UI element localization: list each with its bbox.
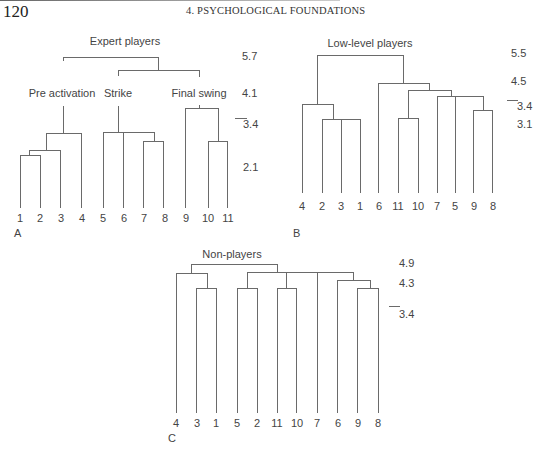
panel-title: Low-level players (328, 37, 413, 49)
dendrogram-link (237, 288, 296, 413)
leaf-label: 1 (357, 200, 363, 212)
scale-value: 3.4 (243, 118, 258, 130)
leaf-label: 2 (254, 417, 260, 429)
leaf-labels: 1 2 3 4 5 6 7 8 9 10 11 (17, 212, 234, 224)
leaf-label: 2 (319, 200, 325, 212)
dendrogram-link (20, 106, 81, 208)
leaf-label: 5 (452, 200, 458, 212)
scale-value: 5.5 (511, 47, 526, 59)
leaf-label: 7 (434, 200, 440, 212)
leaf-label: 5 (234, 417, 240, 429)
dendrogram-link (378, 83, 492, 193)
leaf-label: 4 (173, 417, 179, 429)
panel-label: C (168, 432, 176, 444)
leaf-label: 7 (141, 212, 147, 224)
dendrogram-non-players: Non-players 4.9 4.3 3.4 4 3 1 5 2 11 10 … (168, 248, 414, 444)
leaf-label: 3 (58, 212, 64, 224)
scale-value: 4.5 (511, 75, 526, 87)
leaf-label: 5 (100, 212, 106, 224)
leaf-label: 9 (183, 212, 189, 224)
leaf-label: 6 (121, 212, 127, 224)
scale-value: 2.1 (243, 161, 258, 173)
dendrogram-link (63, 57, 158, 70)
leaf-label: 6 (335, 417, 341, 429)
leaf-label: 9 (355, 417, 361, 429)
scale-value: 3.1 (517, 118, 532, 130)
leaf-label: 10 (202, 212, 214, 224)
leaf-label: 8 (490, 200, 496, 212)
scale-value: 4.1 (242, 87, 257, 99)
scale-value: 4.3 (399, 277, 414, 289)
dendrogram-link (317, 55, 403, 104)
cluster-label-strike: Strike (104, 87, 132, 99)
leaf-label: 3 (194, 417, 200, 429)
leaf-labels: 4 3 1 5 2 11 10 7 6 9 8 (173, 417, 381, 429)
panel-label: A (14, 227, 22, 239)
dendrogram-expert-players: Expert players Pre activation Strike Fin… (14, 35, 258, 239)
scale-value: 5.7 (242, 50, 257, 62)
dendrogram-figure: Expert players Pre activation Strike Fin… (0, 0, 544, 450)
panel-title: Expert players (90, 35, 161, 47)
dendrogram-low-level-players: Low-level players 5.5 4.5 3.4 3.1 4 2 3 … (293, 37, 532, 239)
dendrogram-link (103, 106, 163, 208)
leaf-label: 8 (375, 417, 381, 429)
leaf-label: 7 (314, 417, 320, 429)
leaf-label: 10 (412, 200, 424, 212)
leaf-label: 1 (213, 417, 219, 429)
leaf-label: 4 (299, 200, 305, 212)
panel-title: Non-players (202, 248, 262, 260)
leaf-label: 1 (17, 212, 23, 224)
leaf-label: 3 (338, 200, 344, 212)
leaf-label: 8 (162, 212, 168, 224)
leaf-labels: 4 2 3 1 6 11 10 7 5 9 8 (299, 200, 496, 212)
scale-value: 3.4 (399, 308, 414, 320)
dendrogram-link (337, 280, 378, 413)
leaf-label: 11 (222, 212, 233, 224)
leaf-label: 4 (79, 212, 85, 224)
cluster-label-final-swing: Final swing (171, 87, 226, 99)
leaf-label: 6 (376, 200, 382, 212)
dendrogram-link (118, 70, 199, 77)
dendrogram-link (176, 273, 216, 413)
panel-label: B (293, 227, 300, 239)
leaf-label: 11 (392, 200, 403, 212)
leaf-label: 9 (471, 200, 477, 212)
leaf-label: 2 (37, 212, 43, 224)
leaf-label: 10 (291, 417, 303, 429)
scale-value: 4.9 (399, 257, 414, 269)
scale-value: 3.4 (517, 100, 532, 112)
dendrogram-link (185, 105, 227, 208)
cluster-label-pre-activation: Pre activation (29, 87, 96, 99)
dendrogram-link (302, 104, 360, 193)
leaf-label: 11 (271, 417, 282, 429)
